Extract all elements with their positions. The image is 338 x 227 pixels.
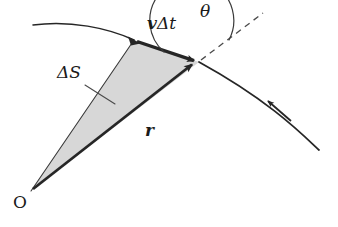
trajectory-curve-right (199, 62, 319, 150)
swept-area-symbol: ΔS (57, 62, 81, 82)
origin-symbol: O (13, 192, 27, 212)
diagram-canvas (0, 0, 338, 227)
trajectory-curve-left (33, 23, 134, 40)
angle-theta-label: θ (200, 3, 210, 20)
velocity-vector-symbol: v (147, 13, 157, 33)
physics-diagram-areal-velocity: vΔt θ ΔS r O (0, 0, 338, 227)
trajectory-direction-arrow-icon (268, 101, 291, 121)
velocity-delta-t-text: Δt (157, 13, 176, 33)
radius-vector-symbol: r (145, 120, 154, 140)
angle-theta-symbol: θ (200, 1, 210, 21)
origin-label: O (13, 194, 27, 211)
swept-area-label: ΔS (57, 64, 81, 81)
radius-vector-label: r (145, 122, 154, 139)
velocity-displacement-label: vΔt (147, 15, 176, 32)
radial-extension-dashed-line (201, 13, 263, 60)
